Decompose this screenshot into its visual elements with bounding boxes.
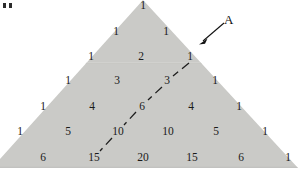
pascal-number: 1 (17, 126, 23, 138)
pascal-number: 10 (162, 126, 174, 138)
pascal-number: 1 (163, 26, 169, 38)
pascal-number: 5 (213, 126, 219, 138)
pascal-number: 10 (112, 126, 124, 138)
pascal-number: 6 (238, 152, 244, 164)
pascal-number: 1 (187, 51, 193, 63)
pascal-triangle-figure: A 111121133114641151010511615201561 (0, 0, 298, 172)
pascal-number: 20 (137, 152, 149, 164)
pascal-number: 1 (88, 51, 94, 63)
pascal-number: 3 (114, 75, 120, 87)
pascal-number: 6 (139, 101, 145, 113)
pascal-number-grid: 111121133114641151010511615201561 (0, 0, 298, 172)
pascal-number: 1 (262, 126, 268, 138)
pascal-number: 2 (138, 51, 144, 63)
pascal-number: 1 (140, 0, 146, 12)
pascal-number: 4 (188, 101, 194, 113)
pascal-number: 1 (236, 101, 242, 113)
pascal-number: 15 (186, 152, 198, 164)
pascal-number: 1 (40, 101, 46, 113)
pascal-number: 4 (89, 101, 95, 113)
pascal-number: 6 (40, 152, 46, 164)
pascal-number: 15 (88, 152, 100, 164)
pascal-number: 3 (164, 75, 170, 87)
pascal-number: 1 (65, 75, 71, 87)
pascal-number: 1 (212, 75, 218, 87)
pascal-number: 1 (113, 26, 119, 38)
pascal-number: 5 (65, 126, 71, 138)
pascal-number: 1 (285, 152, 291, 164)
